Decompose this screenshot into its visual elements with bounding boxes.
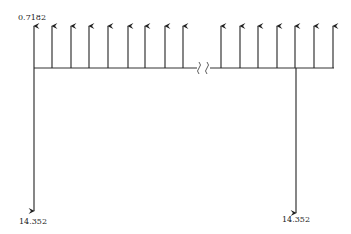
bottom-left-amount-label: 14.352 (19, 217, 47, 226)
cash-flow-diagram (0, 0, 351, 234)
up-arrows (34, 26, 333, 68)
top-amount-label: 0.7182 (18, 13, 46, 22)
bottom-right-amount-label: 14.352 (282, 215, 310, 224)
down-arrows (34, 68, 296, 213)
break-icon (198, 62, 209, 74)
